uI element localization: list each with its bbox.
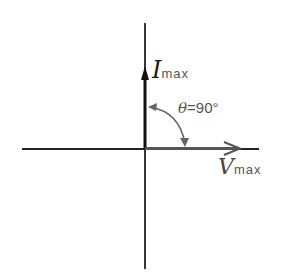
- arc-arrowhead-top-icon: [148, 103, 157, 111]
- current-subscript: max: [161, 66, 189, 81]
- voltage-label: Vmax: [218, 154, 261, 179]
- angle-value: 90°: [196, 99, 219, 116]
- phasor-diagram-canvas: [0, 0, 285, 274]
- current-label: Imax: [152, 56, 189, 84]
- voltage-symbol: V: [218, 154, 234, 179]
- equals-sign: =: [187, 99, 196, 116]
- angle-label: θ=90°: [178, 99, 218, 117]
- current-arrowhead-icon: [141, 66, 149, 80]
- arc-arrowhead-bottom-icon: [180, 138, 189, 147]
- voltage-subscript: max: [234, 162, 262, 177]
- theta-symbol: θ: [178, 99, 187, 117]
